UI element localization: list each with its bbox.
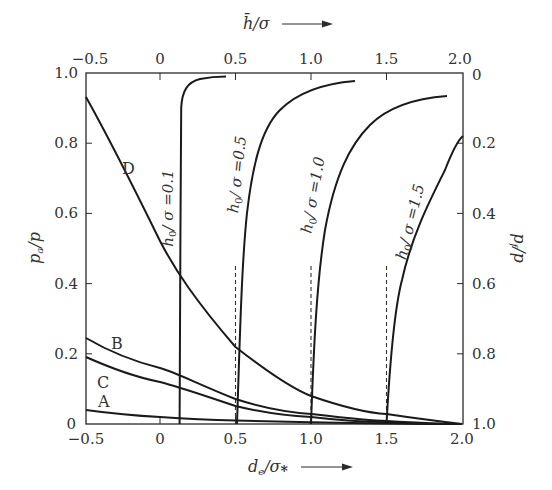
y-tick-left: 0: [66, 415, 76, 433]
y-tick-left: 0.6: [54, 204, 78, 222]
right-axis-title: pf/p: [509, 233, 529, 263]
label-h0-0.1: h0/ σ =0.1: [159, 169, 178, 246]
bottom-axis-title: de/σ*: [248, 457, 288, 479]
x-tick-top: 0: [155, 50, 165, 68]
label-h0-1.0: h0/ σ =1.0: [298, 155, 330, 235]
curve-h0-0.1: [180, 77, 226, 425]
curve-B: [86, 338, 462, 424]
label-B: B: [111, 334, 123, 353]
curve-h0-1.5: [387, 136, 464, 424]
y-tick-left: 0.8: [54, 134, 78, 152]
y-tick-right: 1.0: [472, 415, 496, 433]
y-tick-right: 0.4: [472, 205, 496, 223]
x-tick-top: 1.5: [375, 50, 399, 68]
curve-C: [86, 357, 462, 424]
label-D: D: [122, 159, 135, 178]
top-axis-arrow-icon: [282, 21, 333, 28]
y-tick-left: 1.0: [54, 64, 78, 82]
chart-canvas: −0.5 0 0.5 1.0 1.5 2.0 −0.5 0 0.5 1.0 1.…: [0, 0, 552, 490]
top-axis-title: h̄/σ: [243, 12, 271, 33]
curve-h0-0.5: [237, 81, 355, 424]
label-h0-0.5: h0/ σ =0.5: [224, 135, 251, 214]
y-tick-left: 0.4: [54, 275, 78, 293]
y-tick-right: 0.2: [472, 134, 496, 152]
left-axis-title: pa/p: [25, 232, 45, 264]
x-tick-bottom: 1.0: [299, 430, 323, 448]
x-tick-bottom: 1.5: [375, 430, 399, 448]
left-ticks: [86, 143, 92, 354]
y-tick-right: 0.8: [472, 345, 496, 363]
x-tick-top: 1.0: [299, 50, 323, 68]
top-ticks: [160, 73, 387, 80]
label-C: C: [97, 373, 109, 392]
curve-h0-1.0: [311, 96, 447, 424]
x-tick-bottom: 2.0: [450, 430, 474, 448]
y-tick-left: 0.2: [54, 345, 78, 363]
bottom-axis-arrow-icon: [301, 464, 353, 471]
y-tick-right: 0: [472, 66, 482, 84]
right-ticks: [457, 143, 463, 354]
x-tick-bottom: 0.5: [224, 430, 248, 448]
x-tick-top: 2.0: [448, 50, 472, 68]
x-tick-top: 0.5: [224, 50, 248, 68]
label-h0-1.5: h0/ σ =1.5: [392, 182, 429, 262]
y-tick-right: 0.6: [472, 275, 496, 293]
x-tick-bottom: 0: [155, 430, 165, 448]
label-A: A: [97, 392, 110, 411]
